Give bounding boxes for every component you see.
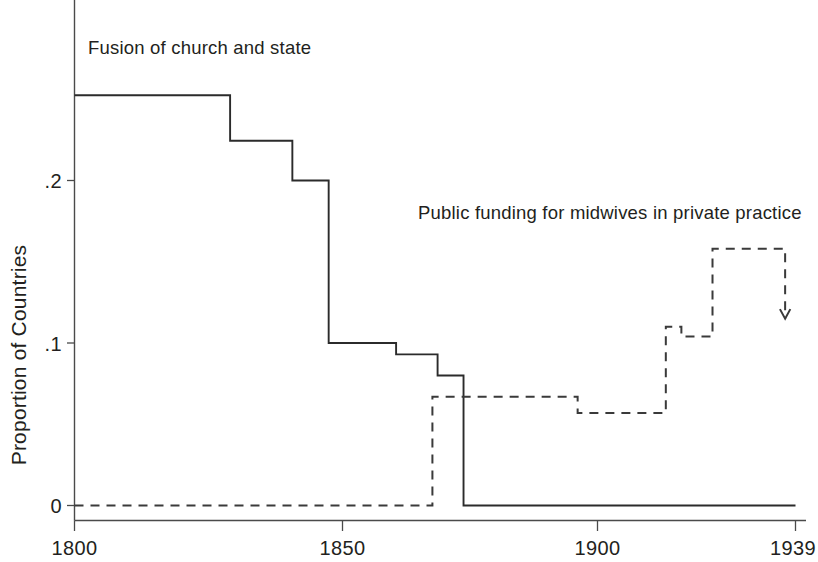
chart-figure: 0 .1 .2 1800 1850 1900 1939 Proportion o… [0,0,818,562]
x-tick-label-1850: 1850 [319,537,365,559]
line-chart-canvas: 0 .1 .2 1800 1850 1900 1939 Proportion o… [0,0,818,562]
y-tick-label-1: .1 [45,333,62,355]
annotation-solid-series: Fusion of church and state [88,37,311,58]
series-line-public-funding-for-midwives [75,249,786,506]
series-line-fusion-of-church-and-state [75,95,796,505]
annotation-dashed-series: Public funding for midwives in private p… [418,202,802,223]
y-axis-title: Proportion of Countries [7,245,30,466]
x-tick-label-1800: 1800 [51,537,97,559]
y-tick-label-0: 0 [50,495,62,517]
x-tick-label-1939: 1939 [770,537,816,559]
y-tick-label-2: .2 [45,170,62,192]
x-tick-label-1900: 1900 [574,537,620,559]
down-arrow-icon [780,309,790,319]
